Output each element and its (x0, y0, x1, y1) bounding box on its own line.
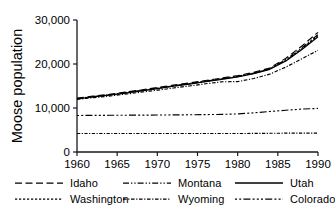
legend-swatch-idaho (14, 178, 64, 188)
legend-label-colorado: Colorado (290, 193, 335, 205)
svg-text:0: 0 (64, 146, 70, 158)
svg-text:10,000: 10,000 (35, 102, 70, 114)
legend-label-idaho: Idaho (70, 177, 98, 189)
legend-item-utah: Utah (234, 175, 333, 191)
legend-row: Idaho Montana Utah (0, 175, 333, 191)
legend-item-wyoming: Wyoming (122, 191, 234, 207)
legend-item-colorado: Colorado (234, 191, 333, 207)
svg-text:1975: 1975 (185, 158, 211, 170)
svg-text:30,000: 30,000 (35, 14, 70, 26)
svg-text:1980: 1980 (225, 158, 251, 170)
svg-text:1970: 1970 (145, 158, 171, 170)
svg-text:20,000: 20,000 (35, 58, 70, 70)
legend-item-montana: Montana (122, 175, 234, 191)
legend-swatch-wyoming (122, 194, 172, 204)
legend-row: Washington Wyoming Colorado (0, 191, 333, 207)
legend-label-washington: Washington (70, 193, 129, 205)
svg-text:1960: 1960 (64, 158, 90, 170)
legend-label-montana: Montana (178, 177, 222, 189)
x-axis-tick-labels: 1960196519701975198019851990 (64, 158, 331, 170)
legend-item-idaho: Idaho (0, 175, 122, 191)
svg-text:1985: 1985 (265, 158, 291, 170)
legend-label-utah: Utah (290, 177, 314, 189)
y-axis-tick-labels: 010,00020,00030,000 (35, 14, 70, 158)
y-axis-title: Moose population (9, 29, 25, 143)
legend-swatch-montana (122, 178, 172, 188)
legend-item-washington: Washington (0, 191, 122, 207)
data-series-lines (77, 32, 318, 133)
chart-legend: Idaho Montana Utah Washington Wyoming (0, 172, 333, 216)
legend-swatch-washington (14, 194, 64, 204)
svg-text:1965: 1965 (104, 158, 130, 170)
axis-lines (77, 20, 318, 152)
tick-marks (73, 20, 318, 156)
legend-swatch-utah (234, 178, 284, 188)
legend-label-wyoming: Wyoming (178, 193, 224, 205)
legend-swatch-colorado (234, 194, 284, 204)
svg-text:1990: 1990 (305, 158, 331, 170)
